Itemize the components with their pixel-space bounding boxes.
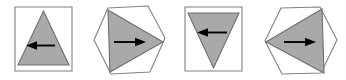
panel-3 [172,0,258,80]
panel-1 [0,0,86,80]
panel-4 [258,0,344,80]
panel-2 [86,0,172,80]
figure-canvas [0,0,346,80]
